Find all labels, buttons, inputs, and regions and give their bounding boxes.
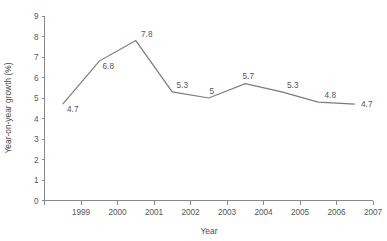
x-axis-tick-label: 2006 <box>327 208 346 217</box>
data-point-label: 4.7 <box>67 105 79 114</box>
x-axis-tick-label: 1999 <box>72 208 91 217</box>
y-axis-tick-label: 4 <box>34 115 39 124</box>
x-axis-tick-label: 2003 <box>218 208 237 217</box>
data-point-label: 4.7 <box>361 100 373 109</box>
x-axis-tick-label: 2004 <box>254 208 273 217</box>
y-axis-tick-label: 2 <box>34 156 39 165</box>
data-point-label: 6.8 <box>103 62 115 71</box>
chart-canvas: 0123456789 19992000200120022003200420052… <box>0 0 387 241</box>
x-axis-tick-label: 2002 <box>181 208 200 217</box>
data-point-label: 5.7 <box>243 72 255 81</box>
x-axis-tick-labels: 199920002001200220032004200520062007 <box>72 208 383 217</box>
x-axis-title: Year <box>201 226 218 236</box>
y-axis-tick-label: 0 <box>34 197 39 206</box>
x-axis-tick-label: 2007 <box>364 208 383 217</box>
data-point-label: 5.3 <box>177 81 189 90</box>
line-chart: 0123456789 19992000200120022003200420052… <box>0 0 387 241</box>
x-axis-tick-label: 2005 <box>291 208 310 217</box>
data-point-label: 7.8 <box>141 30 153 39</box>
y-axis-tick-label: 9 <box>34 12 39 21</box>
x-axis-tick-label: 2001 <box>145 208 164 217</box>
y-axis-tick-label: 5 <box>34 94 39 103</box>
y-axis-tick-label: 3 <box>34 135 39 144</box>
y-axis-tick-label: 8 <box>34 33 39 42</box>
x-axis-tick-label: 2000 <box>108 208 127 217</box>
data-point-label: 5.3 <box>287 81 299 90</box>
y-axis-tick-label: 1 <box>34 176 39 185</box>
y-axis-tick-label: 6 <box>34 74 39 83</box>
y-axis-tick-label: 7 <box>34 53 39 62</box>
data-point-label: 4.8 <box>325 91 337 100</box>
data-point-label: 5 <box>209 87 214 96</box>
chart-background <box>0 0 387 241</box>
y-axis-title: Year-on-year growth (%) <box>3 62 13 153</box>
